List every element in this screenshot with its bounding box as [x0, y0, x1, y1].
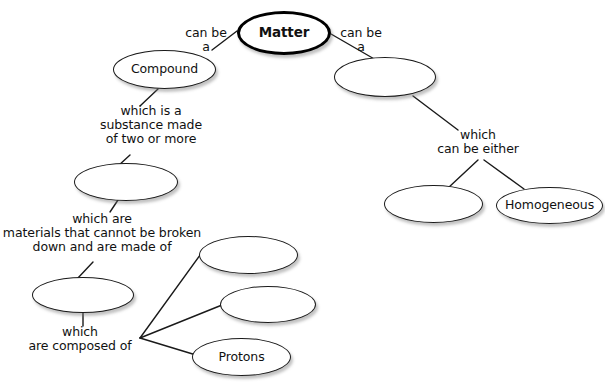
- node-homogeneous[interactable]: Homogeneous: [496, 187, 603, 224]
- node-blank-right-2[interactable]: [384, 185, 483, 223]
- node-matter[interactable]: Matter: [237, 11, 331, 55]
- edge-lbl-which-either-to-blank-right-2: [448, 160, 478, 188]
- node-label-compound: Compound: [131, 63, 198, 76]
- node-compound[interactable]: Compound: [113, 50, 216, 89]
- node-label-protons: Protons: [218, 351, 264, 364]
- edge-lbl-which-comp-to-blank-sub-2: [140, 305, 222, 338]
- edge-lbl-which-comp-to-blank-sub-1: [140, 251, 203, 338]
- node-blank-sub-2[interactable]: [220, 286, 316, 323]
- node-label-homogeneous: Homogeneous: [505, 199, 594, 212]
- edge-label-lbl-which-composed: which are composed of: [22, 325, 138, 353]
- edge-label-lbl-which-are: which are materials that cannot be broke…: [2, 212, 202, 254]
- edge-label-lbl-which-is-a: which is a substance made of two or more: [88, 104, 214, 146]
- node-blank-sub-1[interactable]: [199, 236, 298, 274]
- edge-label-lbl-which-either: which can be either: [428, 128, 528, 156]
- edge-label-lbl-can-be-a-left: can be a: [176, 26, 236, 54]
- edge-label-lbl-can-be-a-right: can be a: [331, 26, 391, 54]
- node-label-matter: Matter: [259, 26, 310, 40]
- edge-blank-right-1-to-lbl-which-either: [413, 96, 458, 130]
- edge-lbl-which-comp-to-protons: [140, 338, 196, 355]
- node-blank-left-1[interactable]: [74, 163, 178, 201]
- node-protons[interactable]: Protons: [192, 338, 291, 376]
- edge-lbl-which-either-to-homogeneous: [484, 160, 524, 189]
- node-blank-right-1[interactable]: [334, 57, 436, 97]
- concept-map-canvas: MatterCompoundProtonsHomogeneous can be …: [0, 0, 605, 386]
- node-blank-left-2[interactable]: [32, 277, 134, 313]
